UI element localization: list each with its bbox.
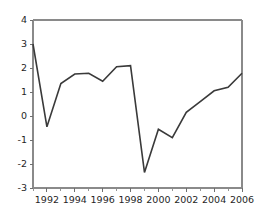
y-tick-label: 4 [21, 14, 27, 25]
x-tick-label: 2004 [202, 194, 226, 205]
x-tick-label: 2002 [174, 194, 198, 205]
x-tick-label: 1992 [35, 194, 59, 205]
x-tick-label: 2000 [146, 194, 170, 205]
y-tick-label: -1 [18, 134, 27, 145]
chart-container: 43210-1-2-3 1992199419961998200020022004… [0, 0, 275, 221]
y-tick-label: 1 [21, 86, 27, 97]
x-tick-label: 1998 [118, 194, 142, 205]
line-chart: 43210-1-2-3 1992199419961998200020022004… [0, 0, 275, 221]
y-tick-label: 2 [21, 62, 27, 73]
x-tick-label: 1996 [91, 194, 115, 205]
y-tick-label: 0 [21, 110, 27, 121]
y-tick-label: 3 [21, 38, 27, 49]
y-tick-label: -3 [18, 182, 27, 193]
y-tick-label: -2 [18, 158, 27, 169]
x-tick-label: 2006 [230, 194, 254, 205]
x-tick-label: 1994 [63, 194, 87, 205]
